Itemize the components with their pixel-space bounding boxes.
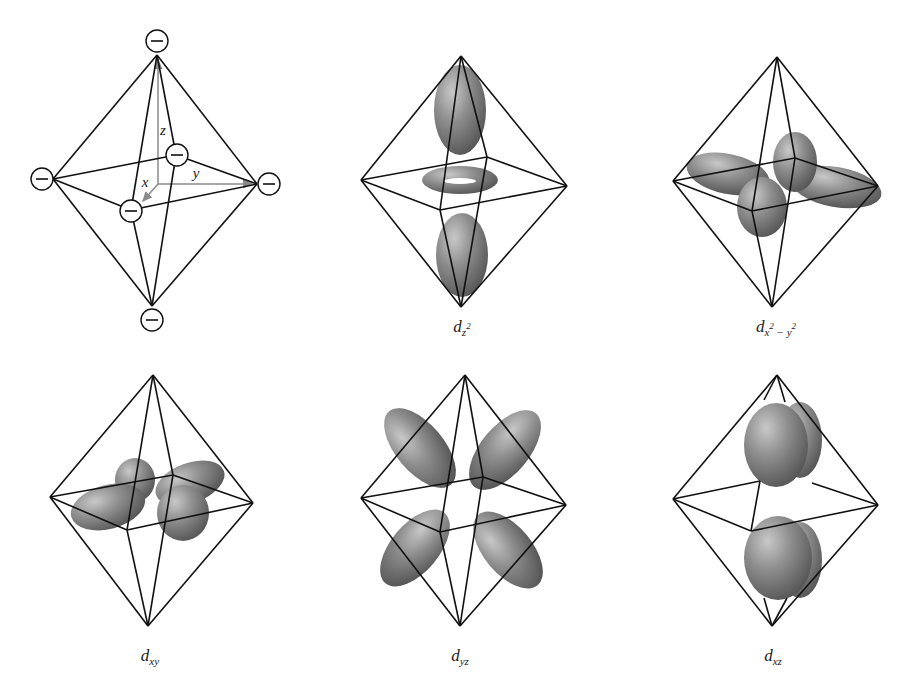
y-axis-label: y: [193, 165, 200, 182]
dz2-label: dz2: [453, 317, 470, 337]
dxz-label: dxz: [764, 646, 782, 666]
ligand-front: [120, 200, 142, 222]
dxy-label: dxy: [141, 646, 159, 666]
dyz-panel: [361, 375, 566, 626]
ligand-bottom: [141, 309, 163, 331]
dyz-label: dyz: [451, 646, 469, 666]
dxy-orbital-lobes: [66, 452, 231, 541]
dyz-orbital-lobes: [367, 396, 556, 601]
dx2-y2-label: dx2 − y2: [756, 317, 796, 337]
dxz-panel: [673, 375, 878, 626]
ligand-right: [258, 173, 280, 195]
dx2-y2-panel: [673, 57, 885, 307]
octahedron-edges: [53, 55, 257, 306]
d-orbital-octahedral-diagram: [0, 0, 899, 691]
ligand-left: [31, 168, 53, 190]
dz2-orbital-lobes: [422, 65, 498, 297]
ligand-octahedron-panel: [31, 30, 280, 331]
x-axis-label: x: [142, 174, 149, 191]
ligand-top: [146, 30, 168, 52]
dz2-panel: [361, 56, 567, 307]
ligand-back: [166, 144, 188, 166]
dx2-y2-orbital-lobes: [683, 132, 885, 237]
dxy-panel: [50, 375, 253, 626]
z-axis-label: z: [160, 122, 166, 139]
